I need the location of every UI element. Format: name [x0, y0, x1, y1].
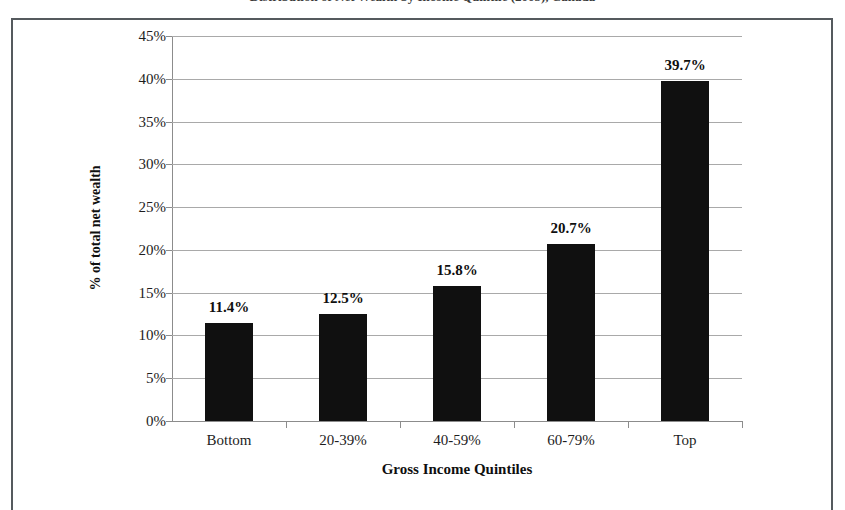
y-axis-tick: [166, 164, 172, 165]
gridline: [172, 250, 742, 251]
y-axis-tick: [166, 293, 172, 294]
y-axis-label: 30%: [76, 157, 166, 172]
gridline: [172, 207, 742, 208]
x-axis-tick: [628, 421, 629, 428]
x-axis-category-label: 40-59%: [433, 432, 481, 449]
bar-value-label: 15.8%: [436, 262, 477, 279]
y-axis-label: 40%: [76, 71, 166, 86]
bar[interactable]: [547, 244, 595, 421]
bar-value-label: 12.5%: [322, 290, 363, 307]
bar[interactable]: [319, 314, 367, 421]
gridline: [172, 79, 742, 80]
x-axis-tick: [286, 421, 287, 428]
gridline: [172, 164, 742, 165]
bar-value-label: 39.7%: [664, 57, 705, 74]
x-axis-tick: [400, 421, 401, 428]
y-axis-label: 25%: [76, 200, 166, 215]
gridline: [172, 421, 742, 422]
y-axis-tick: [166, 79, 172, 80]
bar[interactable]: [661, 81, 709, 421]
y-axis-label: 45%: [76, 29, 166, 44]
y-axis-tick: [166, 122, 172, 123]
x-axis-tick: [742, 421, 743, 428]
bar-value-label: 11.4%: [209, 299, 249, 316]
bar[interactable]: [433, 286, 481, 421]
y-axis-label: 10%: [76, 328, 166, 343]
bar[interactable]: [205, 323, 253, 421]
plot-area: [172, 36, 742, 421]
gridline: [172, 36, 742, 37]
y-axis-label: 15%: [76, 285, 166, 300]
y-axis-label: 5%: [76, 371, 166, 386]
y-axis-label: 0%: [76, 414, 166, 429]
y-axis-tick: [166, 207, 172, 208]
y-axis-label: 20%: [76, 242, 166, 257]
y-axis-tick: [166, 421, 172, 422]
gridline: [172, 122, 742, 123]
x-axis-title: Gross Income Quintiles: [172, 461, 742, 478]
y-axis-tick: [166, 335, 172, 336]
bar-value-label: 20.7%: [550, 220, 591, 237]
x-axis-category-label: 20-39%: [319, 432, 367, 449]
y-axis-label: 35%: [76, 114, 166, 129]
x-axis-category-label: 60-79%: [547, 432, 595, 449]
x-axis-category-label: Top: [673, 432, 696, 449]
y-axis-tick: [166, 378, 172, 379]
y-axis-tick: [166, 250, 172, 251]
x-axis-category-label: Bottom: [206, 432, 251, 449]
x-axis-tick: [514, 421, 515, 428]
y-axis-tick: [166, 36, 172, 37]
y-axis-title: % of total net wealth: [88, 165, 104, 290]
